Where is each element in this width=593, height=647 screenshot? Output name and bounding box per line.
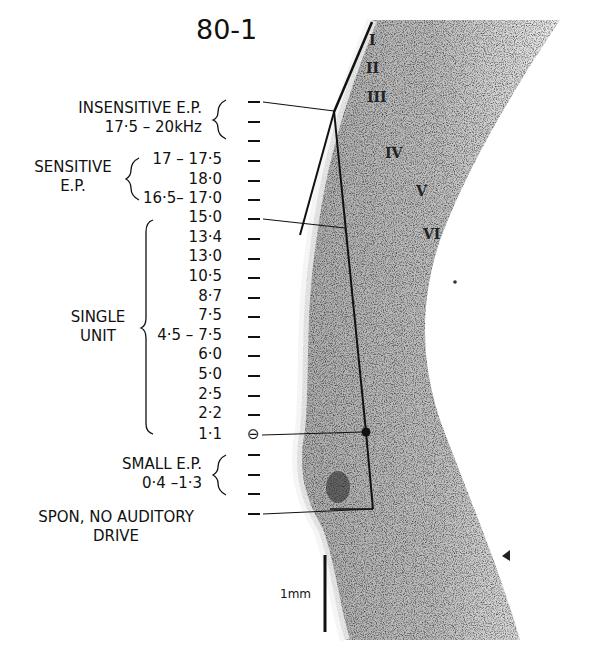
brace-insensitive: [213, 100, 226, 139]
lesion-marker-icon: ⊖: [247, 426, 260, 442]
small-ep-label: SMALL E.P. 0·4 –1·3: [122, 455, 202, 493]
depth-tick: [248, 316, 260, 318]
depth-tick: [248, 238, 260, 240]
scale-bar-label: 1mm: [280, 587, 311, 601]
single-unit-subtitle: UNIT: [58, 327, 138, 346]
layer-label-i: I: [369, 32, 376, 48]
single-unit-title: SINGLE: [58, 308, 138, 327]
depth-tick: [248, 258, 260, 260]
depth-tick: [248, 101, 260, 103]
depth-tick: [248, 474, 260, 476]
spon-title: SPON, NO AUDITORY: [10, 508, 222, 527]
spon-subtitle: DRIVE: [10, 527, 222, 546]
depth-tick: [248, 493, 260, 495]
insensitive-ep-title: INSENSITIVE E.P.: [78, 99, 202, 118]
depth-tick: [248, 199, 260, 201]
sensitive-ep-subtitle: E.P.: [18, 177, 128, 196]
spon-label: SPON, NO AUDITORY DRIVE: [10, 508, 222, 546]
value-sensitive-1: 17 – 17·5: [152, 151, 222, 167]
insensitive-ep-label: INSENSITIVE E.P. 17·5 – 20kHz: [78, 99, 202, 137]
value-single-unit-11: 2·2: [198, 405, 222, 421]
depth-tick: [248, 355, 260, 357]
layer-label-v: V: [416, 183, 427, 199]
depth-tick: [248, 121, 260, 123]
depth-tick: [248, 160, 260, 162]
depth-tick: [248, 277, 260, 279]
depth-tick: [248, 180, 260, 182]
value-sensitive-3: 16·5– 17·0: [143, 190, 222, 206]
value-single-unit-6: 7·5: [198, 307, 222, 323]
layer-label-ii: II: [366, 60, 379, 76]
depth-tick: [248, 336, 260, 338]
depth-tick: [248, 375, 260, 377]
value-sensitive-2: 18·0: [189, 171, 222, 187]
lesion-dot: [362, 428, 371, 437]
layer-label-iii: III: [367, 89, 387, 105]
value-single-unit-9: 5·0: [198, 366, 222, 382]
small-ep-title: SMALL E.P.: [122, 455, 202, 474]
small-ep-range: 0·4 –1·3: [122, 474, 202, 493]
value-single-unit-4: 10·5: [189, 268, 222, 284]
single-unit-label: SINGLE UNIT: [58, 308, 138, 346]
sensitive-ep-title: SENSITIVE: [18, 158, 128, 177]
layer-label-iv: IV: [385, 145, 402, 161]
insensitive-ep-range: 17·5 – 20kHz: [78, 118, 202, 137]
depth-tick: [248, 297, 260, 299]
cortex-tissue: [297, 20, 560, 640]
value-single-unit-1: 15·0: [189, 209, 222, 225]
depth-tick: [248, 140, 260, 142]
value-single-unit-8: 6·0: [198, 346, 222, 362]
depth-tick: [248, 513, 260, 515]
figure-title: 80-1: [196, 14, 257, 45]
value-single-unit-10: 2·5: [198, 386, 222, 402]
brace-single-unit: [141, 220, 153, 434]
value-single-unit-12: 1·1: [198, 426, 222, 442]
brace-small: [213, 455, 226, 495]
depth-tick: [248, 414, 260, 416]
sensitive-ep-label: SENSITIVE E.P.: [18, 158, 128, 196]
depth-tick: [248, 218, 260, 220]
value-single-unit-5: 8·7: [198, 288, 222, 304]
value-single-unit-2: 13·4: [189, 229, 222, 245]
depth-tick: [248, 395, 260, 397]
layer-label-vi: VI: [423, 226, 440, 242]
value-single-unit-3: 13·0: [189, 248, 222, 264]
depth-tick: [248, 454, 260, 456]
value-single-unit-7: 4·5 – 7·5: [157, 327, 222, 343]
